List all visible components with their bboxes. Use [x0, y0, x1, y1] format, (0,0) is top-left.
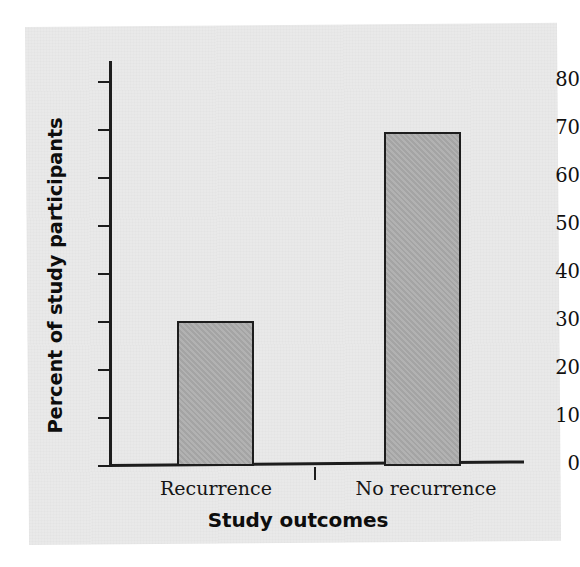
y-tick-label-10: 10 [504, 406, 580, 426]
x-axis-title: Study outcomes [0, 508, 580, 532]
bar-no-recurrence [384, 132, 461, 466]
x-tick-mark-center [314, 467, 316, 480]
y-axis-line [109, 61, 112, 467]
x-category-label-no-recurrence: No recurrence [338, 479, 514, 498]
y-axis-title: Percent of study participants [44, 111, 67, 441]
bar-recurrence [177, 321, 254, 466]
x-category-label-recurrence: Recurrence [136, 479, 296, 498]
y-tick-mark-0 [98, 465, 110, 467]
y-tick-label-40: 40 [504, 262, 580, 282]
figure: 80 70 60 50 40 30 20 10 0 Recurrence No … [0, 0, 580, 567]
y-tick-label-0: 0 [504, 454, 580, 474]
y-tick-mark-30 [98, 321, 110, 323]
y-tick-mark-40 [98, 273, 110, 275]
y-tick-label-30: 30 [504, 310, 580, 330]
y-tick-mark-10 [98, 417, 110, 419]
y-tick-mark-60 [98, 177, 110, 179]
y-tick-mark-80 [98, 81, 110, 83]
page-bleed-text [8, 552, 388, 564]
y-tick-mark-50 [98, 225, 110, 227]
y-tick-label-80: 80 [504, 70, 580, 90]
y-tick-label-20: 20 [504, 358, 580, 378]
y-tick-label-50: 50 [504, 214, 580, 234]
y-tick-label-60: 60 [504, 166, 580, 186]
x-axis-line [109, 460, 524, 466]
y-tick-mark-20 [98, 369, 110, 371]
y-tick-mark-70 [98, 129, 110, 131]
x-axis-title-text: Study outcomes [208, 508, 389, 532]
plot-area: 80 70 60 50 40 30 20 10 0 Recurrence No … [0, 0, 580, 567]
y-tick-label-70: 70 [504, 118, 580, 138]
